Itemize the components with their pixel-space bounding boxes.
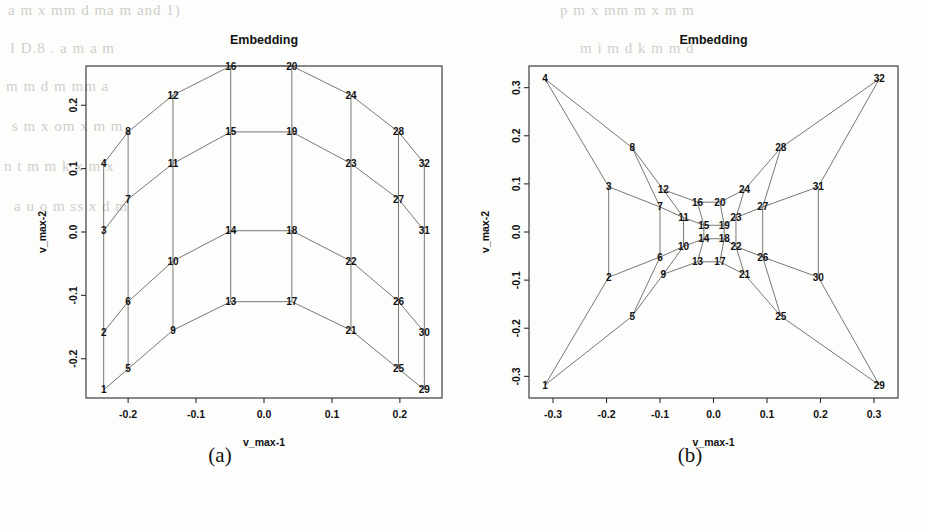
y-axis-label: v_max-2 [479, 211, 491, 253]
graph-edge [351, 330, 399, 369]
graph-edge [781, 79, 879, 148]
data-point-label: 3 [606, 181, 612, 192]
data-point-label: 29 [874, 380, 886, 391]
plot-frame [529, 66, 898, 398]
x-axis-tick-label: 0.1 [760, 408, 775, 420]
data-point-label: 24 [345, 90, 357, 101]
data-point-label: 12 [658, 184, 670, 195]
data-point-label: 10 [678, 241, 690, 252]
panel-b-caption: (b) [650, 443, 730, 468]
data-point-label: 30 [813, 272, 825, 283]
data-point-label: 4 [542, 73, 548, 84]
x-axis-tick-label: 0.1 [325, 408, 340, 420]
data-point-label: 28 [775, 142, 787, 153]
data-point-label: 3 [101, 225, 107, 236]
graph-edge [545, 79, 609, 187]
x-axis-tick-label: -0.2 [119, 408, 137, 420]
data-point-label: 26 [393, 296, 405, 307]
data-point-label: 10 [167, 256, 179, 267]
y-axis-tick-label: 0.0 [510, 225, 522, 240]
graph-edge [818, 277, 879, 385]
y-axis-tick-label: 0.3 [510, 80, 522, 95]
graph-edge [763, 187, 819, 207]
data-point-label: 19 [286, 126, 298, 137]
data-point-label: 18 [719, 233, 731, 244]
point-label-group: 1234567891011121314151617181920212223242… [101, 61, 430, 396]
data-point-label: 32 [419, 158, 431, 169]
graph-edge [292, 66, 351, 95]
data-point-label: 1 [542, 380, 548, 391]
data-point-label: 2 [606, 272, 612, 283]
data-point-label: 8 [629, 142, 635, 153]
graph-edge [128, 261, 173, 302]
figure-page: a m x mm d ma m and 1) I D.8 . a m a m m… [0, 0, 928, 529]
y-axis-tick-label: 0.2 [510, 128, 522, 143]
data-point-label: 20 [714, 197, 726, 208]
data-point-label: 11 [168, 158, 179, 169]
graph-edge [545, 277, 609, 385]
data-point-label: 7 [657, 201, 663, 212]
data-point-label: 17 [714, 256, 726, 267]
panel-b: Embedding-0.3-0.2-0.10.00.10.20.3-0.3-0.… [458, 0, 928, 460]
graph-edge [173, 132, 231, 164]
edge-group [545, 79, 879, 385]
y-axis-tick-label: 0.2 [67, 98, 79, 113]
graph-edge [818, 79, 879, 187]
y-axis-tick-label: 0.1 [510, 176, 522, 191]
data-point-label: 1 [101, 384, 107, 395]
y-axis-tick-label: -0.1 [510, 271, 522, 289]
plot-title: Embedding [230, 33, 298, 47]
y-axis-tick-label: 0.0 [67, 225, 79, 240]
graph-edge [351, 95, 399, 132]
data-point-label: 13 [692, 256, 704, 267]
data-point-label: 26 [757, 252, 769, 263]
data-point-label: 9 [170, 325, 176, 336]
x-axis-tick-label: -0.1 [651, 408, 669, 420]
graph-edge [128, 164, 173, 199]
panel-a: Embedding-0.2-0.10.00.10.2-0.2-0.10.00.1… [0, 0, 470, 460]
data-point-label: 21 [739, 269, 751, 280]
graph-edge [351, 164, 399, 199]
x-axis-tick-label: -0.3 [544, 408, 562, 420]
data-point-label: 4 [101, 158, 107, 169]
x-axis-tick-label: 0.0 [706, 408, 721, 420]
data-point-label: 31 [419, 225, 431, 236]
graph-edge [763, 257, 781, 316]
x-axis-tick-label: 0.2 [393, 408, 408, 420]
data-point-label: 23 [730, 212, 742, 223]
data-point-label: 17 [286, 296, 298, 307]
plot-a-canvas: Embedding-0.2-0.10.00.10.2-0.2-0.10.00.1… [0, 0, 470, 460]
graph-edge [128, 330, 173, 369]
data-point-label: 25 [393, 363, 405, 374]
data-point-label: 16 [225, 61, 237, 72]
data-point-label: 31 [813, 181, 825, 192]
plot-b-canvas: Embedding-0.3-0.2-0.10.00.10.20.3-0.3-0.… [458, 0, 928, 460]
x-axis-tick-label: -0.1 [187, 408, 205, 420]
data-point-label: 8 [125, 126, 131, 137]
data-point-label: 21 [345, 325, 357, 336]
graph-edge [292, 132, 351, 164]
data-point-label: 14 [698, 233, 710, 244]
data-point-label: 30 [419, 327, 431, 338]
graph-edge [173, 231, 231, 261]
graph-edge [545, 79, 632, 148]
x-axis-tick-label: 0.2 [813, 408, 828, 420]
graph-edge [128, 95, 173, 132]
data-point-label: 22 [730, 241, 742, 252]
data-point-label: 15 [225, 126, 237, 137]
graph-edge [351, 261, 399, 302]
data-point-label: 2 [101, 327, 107, 338]
data-point-label: 7 [125, 194, 131, 205]
graph-edge [632, 274, 663, 316]
y-axis-tick-label: -0.2 [67, 350, 79, 368]
y-axis-tick-label: -0.1 [67, 286, 79, 304]
graph-edge [292, 302, 351, 331]
data-point-label: 19 [719, 220, 731, 231]
graph-edge [781, 316, 879, 385]
data-point-label: 25 [775, 311, 787, 322]
graph-edge [173, 66, 231, 95]
graph-edge [545, 316, 632, 385]
data-point-label: 27 [757, 201, 769, 212]
data-point-label: 29 [419, 384, 431, 395]
data-point-label: 27 [393, 194, 405, 205]
